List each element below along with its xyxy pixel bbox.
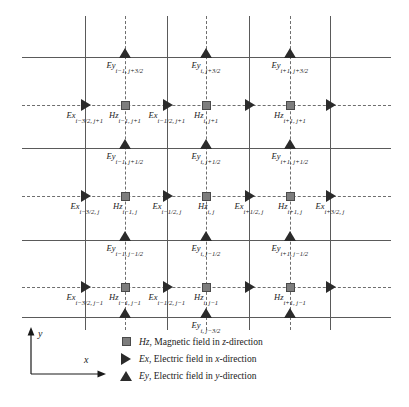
hz-marker	[202, 101, 211, 110]
ex-marker	[81, 281, 91, 293]
hz-marker-label: Hzi, j+1	[194, 111, 218, 120]
ey-marker-label: Eyi, j−1/2	[192, 244, 221, 253]
ey-marker	[284, 48, 296, 58]
ey-marker	[119, 139, 131, 149]
ey-marker	[200, 308, 212, 318]
hz-marker-label: Hzi−1, j+1	[109, 111, 141, 120]
ey-marker-label: Eyi, j+1/2	[192, 152, 221, 161]
ey-marker	[284, 308, 296, 318]
ex-marker-label: Exi−3/2, j−1	[67, 293, 104, 302]
ey-marker-label: Eyi−1, j+3/2	[107, 61, 144, 70]
hz-marker-label: Hzi+1, j+1	[274, 111, 306, 120]
axis-label-x: x	[84, 354, 88, 365]
hz-marker-label: Hzi, j	[198, 202, 214, 211]
ex-marker	[326, 190, 336, 202]
hz-marker	[202, 192, 211, 201]
legend-item-label: Hz, Magnetic field in z-direction	[139, 337, 263, 347]
ey-marker	[284, 139, 296, 149]
ex-marker-label: Exi−1/2, j	[153, 202, 182, 211]
legend-item-hz: Hz, Magnetic field in z-direction	[118, 333, 263, 350]
hz-marker-label: Hzi, j−1	[194, 293, 218, 302]
ex-marker	[245, 190, 255, 202]
legend-item-ey: Ey, Electric field in y-direction	[118, 367, 263, 384]
ex-marker	[326, 281, 336, 293]
legend-item-ex: Ex, Electric field in x-direction	[118, 350, 263, 367]
ex-marker	[81, 190, 91, 202]
ex-marker	[245, 281, 255, 293]
square-marker-icon	[118, 337, 134, 346]
hz-marker	[286, 192, 295, 201]
ey-marker	[119, 231, 131, 241]
ey-marker	[119, 308, 131, 318]
ex-marker-label: Exi−1/2, j+1	[149, 111, 186, 120]
legend: Hz, Magnetic field in z-directionEx, Ele…	[118, 333, 263, 384]
ex-marker-label: Exi−3/2, j+1	[67, 111, 104, 120]
hz-marker	[286, 101, 295, 110]
ey-marker	[200, 231, 212, 241]
axis-indicator: y x	[26, 322, 112, 382]
ex-marker-label: Exi+1/2, j	[235, 202, 264, 211]
ex-marker	[163, 99, 173, 111]
legend-item-label: Ey, Electric field in y-direction	[139, 371, 256, 381]
yee-grid-figure: Eyi−1, j+3/2Eyi, j+3/2Eyi+1, j+3/2Exi−3/…	[0, 0, 409, 407]
ey-marker-label: Eyi+1, j+1/2	[272, 152, 309, 161]
hz-marker	[121, 192, 130, 201]
hz-marker-label: Hzi+1, j	[278, 202, 302, 211]
ex-marker-label: Exi−3/2, j	[71, 202, 100, 211]
ex-marker	[245, 99, 255, 111]
axis-label-y: y	[38, 328, 42, 339]
hz-marker-label: Hzi−1, j−1	[109, 293, 141, 302]
hz-marker	[121, 101, 130, 110]
up-triangle-marker-icon	[118, 371, 134, 381]
ex-marker	[163, 190, 173, 202]
hz-marker	[121, 283, 130, 292]
ey-marker	[200, 139, 212, 149]
ey-marker-label: Eyi−1, j+1/2	[107, 152, 144, 161]
hz-marker-label: Hzi+1, j−1	[274, 293, 306, 302]
ey-marker-label: Eyi+1, j+3/2	[272, 61, 309, 70]
ex-marker	[81, 99, 91, 111]
ex-marker-label: Exi+3/2, j	[316, 202, 345, 211]
legend-item-label: Ex, Electric field in x-direction	[139, 354, 256, 364]
ex-marker-label: Exi−1/2, j−1	[149, 293, 186, 302]
hz-marker	[286, 283, 295, 292]
ey-marker	[284, 231, 296, 241]
ey-marker-label: Eyi, j−3/2	[192, 321, 221, 330]
right-triangle-marker-icon	[118, 353, 134, 365]
ey-marker-label: Eyi+1, j−1/2	[272, 244, 309, 253]
ey-marker-label: Eyi, j+3/2	[192, 61, 221, 70]
hz-marker	[202, 283, 211, 292]
ey-marker	[119, 48, 131, 58]
ex-marker	[326, 99, 336, 111]
ey-marker	[200, 48, 212, 58]
hz-marker-label: Hzi−1, j	[113, 202, 137, 211]
ey-marker-label: Eyi−1, j−1/2	[107, 244, 144, 253]
ex-marker	[163, 281, 173, 293]
